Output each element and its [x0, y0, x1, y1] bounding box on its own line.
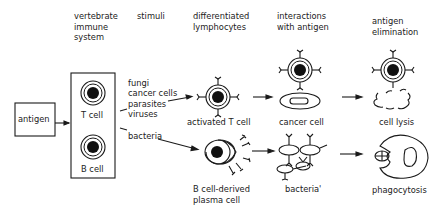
phagocytosis-cell [375, 135, 428, 178]
cancer-cell-label: cancer cell [279, 117, 324, 128]
phagocytosis-label: phagocytosis [372, 185, 427, 196]
b-cell-label: B cell [81, 164, 104, 175]
t-cell-nucleus [87, 87, 99, 99]
plasma-cell [205, 135, 250, 175]
b-cell-nucleus [87, 141, 99, 153]
bacteria-target-label: bacteria' [285, 184, 321, 195]
antigen-label: antigen [18, 114, 50, 125]
cell-lysis-label: cell lysis [379, 117, 414, 128]
plasma-cell-label: B cell-derived plasma cell [193, 184, 250, 205]
stimuli-t-list: fungi cancer cells parasites viruses [128, 78, 177, 119]
t-cell-label: T cell [81, 110, 103, 121]
activated-t-cell-label: activated T cell [187, 117, 250, 128]
bacteria-cluster [277, 134, 327, 180]
stimuli-b-label: bacteria [128, 131, 162, 142]
